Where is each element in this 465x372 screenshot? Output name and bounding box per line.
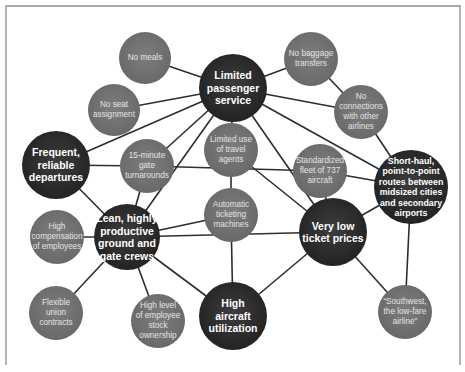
node-no-meals: No meals: [119, 32, 171, 84]
node-label: High aircraft utilization: [209, 297, 258, 335]
node-label: Short-haul, point-to-point routes betwee…: [379, 156, 444, 219]
node-gate15: 15-minute gate turnarounds: [120, 139, 174, 193]
node-label: High compensation of employees: [32, 222, 83, 252]
node-label: Frequent, reliable departures: [29, 146, 83, 184]
node-fleet737: Standardized fleet of 737 aircraft: [293, 144, 347, 198]
node-travel-agents: Limited use of travel agents: [204, 123, 258, 177]
node-label: Automatic ticketing machines: [213, 200, 249, 230]
node-label: Standardized fleet of 737 aircraft: [296, 156, 344, 186]
node-label: Very low ticket prices: [302, 220, 363, 245]
node-label: Flexible union contracts: [39, 298, 72, 328]
node-label: High level of employee stock ownership: [136, 301, 181, 341]
node-high-comp: High compensation of employees: [30, 210, 84, 264]
node-lean-crews: Lean, highly productive ground and gate …: [94, 204, 160, 270]
node-union: Flexible union contracts: [29, 286, 83, 340]
node-frequent: Frequent, reliable departures: [22, 131, 90, 199]
node-label: No seat assignment: [93, 100, 135, 120]
node-lps: Limited passenger service: [199, 54, 267, 122]
node-southwest: “Southwest, the low-fare airline”: [378, 285, 432, 339]
node-label: 15-minute gate turnarounds: [125, 151, 169, 181]
node-short-haul: Short-haul, point-to-point routes betwee…: [374, 150, 448, 224]
node-stock: High level of employee stock ownership: [131, 294, 185, 348]
node-label: Limited use of travel agents: [210, 135, 252, 165]
node-label: No baggage transfers: [289, 49, 334, 69]
node-label: “Southwest, the low-fare airline”: [383, 297, 426, 327]
node-label: No meals: [128, 53, 163, 63]
node-label: No connections with other airlines: [339, 92, 383, 132]
node-no-baggage: No baggage transfers: [284, 32, 338, 86]
node-utilization: High aircraft utilization: [199, 282, 267, 350]
node-label: Lean, highly productive ground and gate …: [96, 212, 157, 262]
node-auto-ticket: Automatic ticketing machines: [204, 188, 258, 242]
node-label: Limited passenger service: [207, 69, 260, 107]
node-no-connections: No connections with other airlines: [334, 85, 388, 139]
node-low-prices: Very low ticket prices: [299, 198, 367, 266]
node-no-seat: No seat assignment: [88, 84, 140, 136]
